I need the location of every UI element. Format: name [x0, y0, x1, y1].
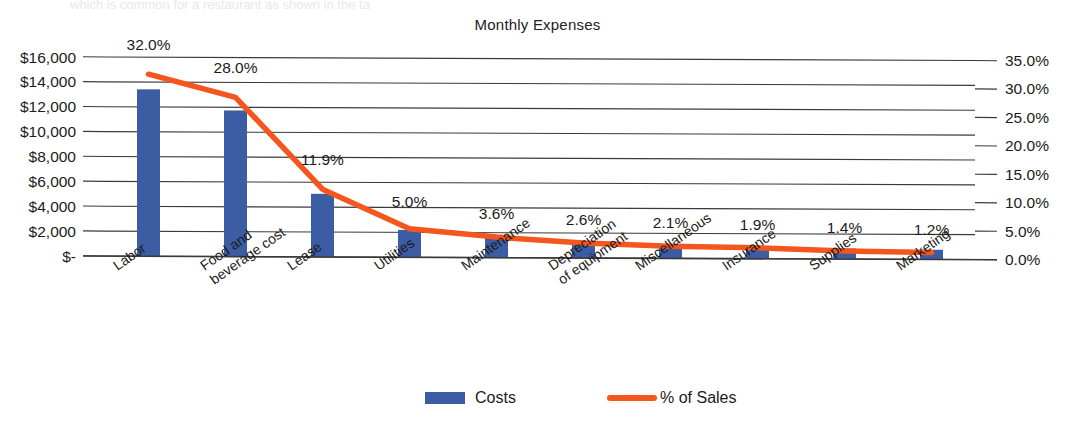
- right-axis-tick-label: 10.0%: [1005, 194, 1049, 211]
- category-label: Maintenance: [458, 214, 533, 273]
- right-axis-tick-label: 35.0%: [1005, 52, 1049, 69]
- chart-legend: Costs% of Sales: [425, 389, 736, 406]
- data-label: 11.9%: [301, 151, 344, 168]
- legend-swatch-costs: [425, 392, 465, 404]
- category-label-line: Maintenance: [458, 214, 533, 273]
- gridline: [105, 82, 975, 86]
- left-axis-tick-label: $4,000: [29, 198, 77, 215]
- legend-label: % of Sales: [660, 389, 736, 406]
- right-axis-labels-group: 0.0%5.0%10.0%15.0%20.0%25.0%30.0%35.0%: [1005, 52, 1049, 268]
- right-axis-tick-label: 15.0%: [1005, 166, 1049, 183]
- data-label: 32.0%: [127, 36, 171, 53]
- left-axis-tick-label: $14,000: [20, 73, 76, 90]
- right-axis-tick-label: 25.0%: [1005, 109, 1049, 126]
- left-axis-tick-label: $10,000: [20, 123, 76, 140]
- left-axis-tick-label: $2,000: [29, 223, 77, 240]
- left-axis-ticks-group: [83, 57, 105, 256]
- line-series-pct-of-sales: [149, 74, 932, 252]
- left-axis-tick-label: $12,000: [20, 98, 76, 115]
- chart-plot-area: $-$2,000$4,000$6,000$8,000$10,000$12,000…: [0, 0, 1075, 435]
- right-axis-tick-label: 5.0%: [1005, 223, 1041, 240]
- left-axis-labels-group: $-$2,000$4,000$6,000$8,000$10,000$12,000…: [20, 49, 76, 265]
- legend-label: Costs: [475, 389, 516, 406]
- line-path: [149, 74, 932, 252]
- data-label: 5.0%: [392, 193, 428, 210]
- left-axis-tick-label: $-: [62, 248, 76, 265]
- chart-container: which is common for a restaurant as show…: [0, 0, 1075, 435]
- right-axis-tick-label: 30.0%: [1005, 80, 1049, 97]
- bar: [137, 89, 160, 256]
- data-label: 3.6%: [479, 205, 515, 222]
- right-axis-tick-label: 20.0%: [1005, 137, 1049, 154]
- left-axis-tick-label: $6,000: [29, 173, 77, 190]
- right-axis-tick-label: 0.0%: [1005, 251, 1041, 268]
- gridline: [105, 107, 975, 111]
- left-axis-tick-label: $16,000: [20, 49, 76, 66]
- left-axis-tick-label: $8,000: [29, 148, 77, 165]
- right-axis-ticks-group: [975, 61, 997, 260]
- data-label: 28.0%: [214, 59, 258, 76]
